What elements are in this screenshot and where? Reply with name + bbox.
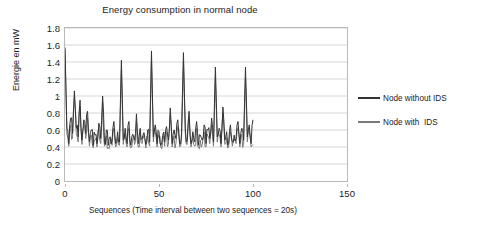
chart-legend: Node without IDSNode with IDS [358,86,483,134]
x-tick-mark [347,184,348,187]
y-tick-mark [57,130,60,131]
y-tick-label: 1 [30,91,60,102]
y-tick-mark [57,45,60,46]
y-axis-ticks: 00.20.40.60.811.21.41.61.8 [26,27,60,182]
x-tick-label: 50 [139,188,179,199]
legend-swatch-icon [358,97,380,99]
y-tick-mark [57,79,60,80]
y-tick-label: 1.8 [30,23,60,34]
x-tick-label: 150 [327,188,367,199]
y-tick-mark [57,147,60,148]
x-tick-label: 0 [45,188,85,199]
x-axis-label: Sequences (Time interval between two seq… [28,206,358,215]
y-tick-mark [57,28,60,29]
y-tick-label: 0.2 [30,159,60,170]
y-tick-label: 1.6 [30,40,60,51]
y-tick-label: 1.4 [30,57,60,68]
x-tick-mark [65,184,66,187]
legend-swatch-icon [358,121,380,123]
y-tick-mark [57,96,60,97]
series-canvas [65,28,347,181]
x-tick-mark [253,184,254,187]
y-tick-label: 0.6 [30,125,60,136]
legend-label: Node with IDS [383,118,438,127]
y-tick-mark [57,113,60,114]
y-tick-mark [57,181,60,182]
chart-title: Energy consumption in normal node [0,4,360,15]
x-axis-ticks: 050100150 [64,184,348,200]
y-tick-mark [57,62,60,63]
y-tick-label: 0.4 [30,142,60,153]
energy-consumption-chart: Energy consumption in normal node Energi… [0,0,483,230]
y-tick-label: 0 [30,176,60,187]
y-tick-label: 1.2 [30,74,60,85]
legend-item[interactable]: Node with IDS [358,110,483,134]
x-tick-label: 100 [233,188,273,199]
y-tick-mark [57,164,60,165]
legend-label: Node without IDS [383,94,447,103]
y-tick-label: 0.8 [30,108,60,119]
y-axis-label: Energie en mW [11,0,21,120]
legend-item[interactable]: Node without IDS [358,86,483,110]
plot-area [64,27,348,182]
x-tick-mark [159,184,160,187]
